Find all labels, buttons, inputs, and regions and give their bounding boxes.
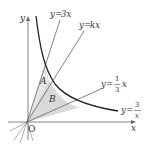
- label-y-3x: y = 3x: [49, 9, 71, 19]
- y-axis-arrow-icon: [26, 16, 30, 21]
- region-a-label: A: [39, 76, 47, 86]
- svg-text:3x: 3x: [61, 9, 71, 19]
- origin-label: O: [28, 124, 35, 134]
- svg-text:=: =: [126, 105, 133, 115]
- svg-text:3: 3: [115, 86, 119, 94]
- region-b-label: B: [48, 94, 56, 104]
- label-y-kx: y = kx: [78, 20, 100, 30]
- svg-text:x: x: [122, 79, 127, 89]
- y-axis-label: y: [19, 13, 26, 23]
- svg-text:x: x: [135, 112, 139, 120]
- svg-text:kx: kx: [90, 20, 100, 30]
- label-y-3-over-x: y = 3 x: [120, 101, 141, 120]
- x-axis-label: x: [131, 123, 136, 133]
- svg-text:1: 1: [115, 75, 119, 83]
- label-y-third-x: y = 1 3 x: [100, 75, 127, 94]
- svg-text:=: =: [106, 79, 113, 89]
- function-graph-figure: y x O y = 3x y = kx y = 1 3 x y = 3 x A …: [0, 0, 159, 149]
- svg-text:3: 3: [135, 101, 139, 109]
